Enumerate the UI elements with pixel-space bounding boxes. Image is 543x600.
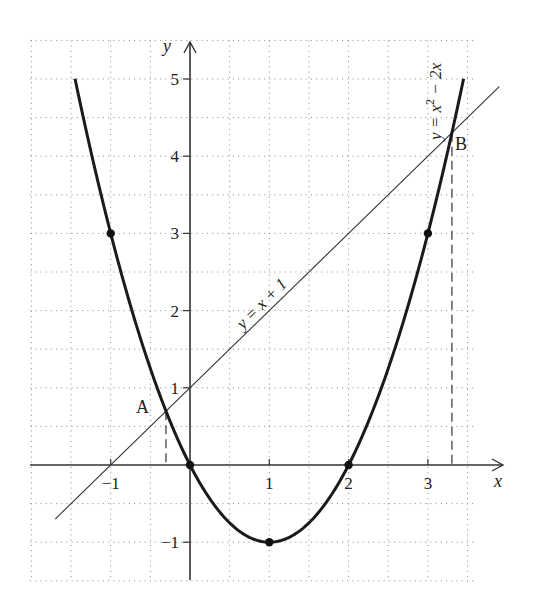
marked-point bbox=[265, 538, 273, 546]
line-y-equals-x-plus-1 bbox=[55, 87, 499, 519]
parabola-eq-suffix: − 2x bbox=[426, 62, 445, 98]
y-tick-label: −1 bbox=[161, 533, 179, 552]
x-tick-label: 1 bbox=[265, 474, 274, 493]
x-tick-label: 3 bbox=[424, 474, 433, 493]
x-tick-label: −1 bbox=[102, 474, 120, 493]
y-axis-label: y bbox=[161, 36, 171, 56]
y-tick-label: 2 bbox=[171, 302, 180, 321]
parabola-equation-label: y = x2 − 2x bbox=[423, 62, 445, 142]
x-axis-label: x bbox=[493, 471, 502, 491]
function-graph: −1123−112345 x y A B y = x + 1 y = x2 − … bbox=[0, 0, 543, 600]
marked-point bbox=[186, 461, 194, 469]
marked-point bbox=[107, 229, 115, 237]
marked-point bbox=[344, 461, 352, 469]
line-equation-label: y = x + 1 bbox=[231, 274, 291, 334]
x-tick-label: 2 bbox=[344, 474, 353, 493]
y-tick-label: 1 bbox=[171, 379, 180, 398]
point-b-label: B bbox=[455, 134, 467, 154]
marked-point bbox=[424, 229, 432, 237]
y-tick-label: 3 bbox=[171, 224, 180, 243]
point-a-label: A bbox=[136, 397, 149, 417]
y-tick-label: 4 bbox=[171, 147, 180, 166]
y-tick-label: 5 bbox=[171, 70, 180, 89]
parabola-eq-prefix: y = x bbox=[426, 104, 445, 142]
